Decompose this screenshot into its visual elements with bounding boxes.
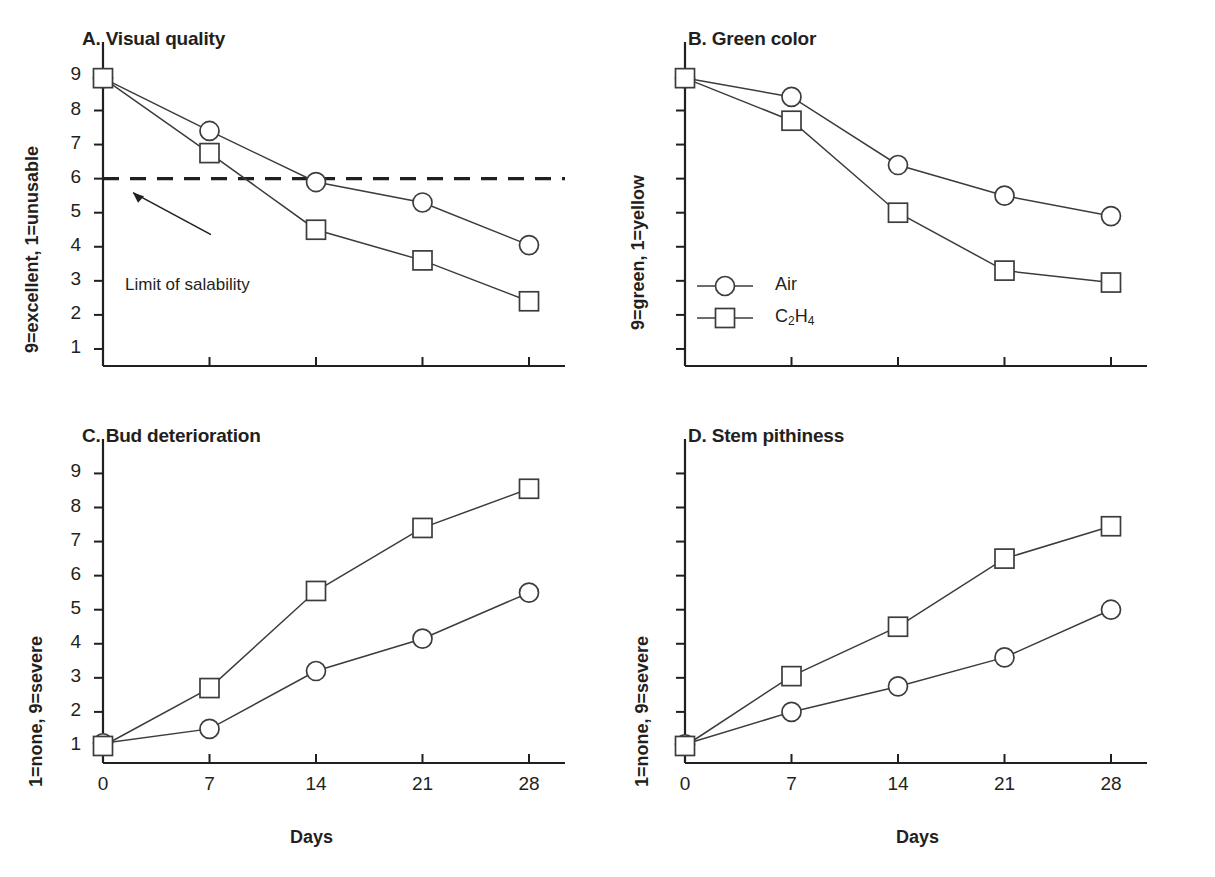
panel-c-x-axis-label: Days	[290, 827, 333, 848]
panel-c-y-axis-label: 1=none, 9=severe	[26, 636, 47, 787]
figure-root: A. Visual quality 9=excellent, 1=unusabl…	[0, 0, 1215, 877]
square-open-marker	[995, 261, 1014, 280]
square-open-marker	[520, 479, 539, 498]
panel-b-plot	[600, 18, 1215, 388]
y-tick-label: 3	[59, 665, 81, 687]
y-tick-label: 6	[59, 563, 81, 585]
panel-b-y-axis-label: 9=green, 1=yellow	[628, 175, 649, 330]
panel-c-title: C. Bud deterioration	[82, 425, 261, 447]
panel-a-y-axis-label: 9=excellent, 1=unusable	[22, 146, 43, 353]
series-line-C2H4	[103, 489, 529, 746]
panel-d-y-axis-label: 1=none, 9=severe	[632, 636, 653, 787]
panel-a-plot	[0, 18, 600, 388]
circle-open-marker	[520, 236, 539, 255]
square-open-marker	[520, 292, 539, 311]
series-line-C2H4	[685, 78, 1111, 282]
square-open-marker	[782, 667, 801, 686]
square-open-marker	[676, 736, 695, 755]
y-tick-label: 6	[59, 166, 81, 188]
cropped-header-text	[0, 0, 1215, 10]
circle-open-marker	[1102, 600, 1121, 619]
circle-open-marker	[307, 662, 326, 681]
y-tick-label: 9	[59, 63, 81, 85]
legend-label-c2h4: C2H4	[775, 306, 814, 328]
square-open-marker	[200, 679, 219, 698]
square-open-marker	[1102, 273, 1121, 292]
legend-marker-c2h4	[716, 309, 735, 328]
square-open-marker	[995, 549, 1014, 568]
series-line-Air	[685, 78, 1111, 216]
circle-open-marker	[995, 648, 1014, 667]
circle-open-marker	[413, 193, 432, 212]
x-tick-label: 28	[512, 773, 546, 795]
x-tick-label: 14	[881, 773, 915, 795]
y-tick-label: 2	[59, 302, 81, 324]
y-tick-label: 8	[59, 98, 81, 120]
square-open-marker	[94, 69, 113, 88]
square-open-marker	[889, 617, 908, 636]
square-open-marker	[413, 518, 432, 537]
y-tick-label: 4	[59, 631, 81, 653]
circle-open-marker	[307, 173, 326, 192]
y-tick-label: 5	[59, 597, 81, 619]
circle-open-marker	[995, 186, 1014, 205]
square-open-marker	[307, 581, 326, 600]
y-tick-label: 1	[59, 336, 81, 358]
limit-of-salability-annotation: Limit of salability	[125, 275, 250, 295]
panel-a-visual-quality: A. Visual quality 9=excellent, 1=unusabl…	[0, 18, 600, 388]
y-tick-label: 3	[59, 268, 81, 290]
square-open-marker	[782, 111, 801, 130]
x-tick-label: 0	[668, 773, 702, 795]
y-tick-label: 7	[59, 529, 81, 551]
y-tick-label: 4	[59, 234, 81, 256]
square-open-marker	[413, 251, 432, 270]
square-open-marker	[94, 736, 113, 755]
panel-c-plot	[0, 415, 600, 815]
circle-open-marker	[200, 719, 219, 738]
panel-b-green-color: B. Green color 9=green, 1=yellow Air C2H…	[600, 18, 1215, 388]
panel-a-title: A. Visual quality	[82, 28, 225, 50]
y-tick-label: 2	[59, 699, 81, 721]
annotation-arrow-line	[133, 193, 211, 235]
x-tick-label: 21	[988, 773, 1022, 795]
legend-label-air: Air	[775, 274, 797, 295]
square-open-marker	[200, 144, 219, 163]
circle-open-marker	[200, 121, 219, 140]
panel-d-plot	[600, 415, 1215, 815]
panel-d-stem-pithiness: D. Stem pithiness 1=none, 9=severe Days …	[600, 415, 1215, 877]
circle-open-marker	[782, 702, 801, 721]
y-tick-label: 9	[59, 460, 81, 482]
panel-d-x-axis-label: Days	[896, 827, 939, 848]
panel-d-title: D. Stem pithiness	[688, 425, 844, 447]
square-open-marker	[889, 203, 908, 222]
circle-open-marker	[520, 583, 539, 602]
y-tick-label: 7	[59, 132, 81, 154]
square-open-marker	[1102, 517, 1121, 536]
y-tick-label: 5	[59, 200, 81, 222]
circle-open-marker	[1102, 207, 1121, 226]
x-tick-label: 21	[406, 773, 440, 795]
y-tick-label: 8	[59, 495, 81, 517]
square-open-marker	[307, 220, 326, 239]
x-tick-label: 7	[775, 773, 809, 795]
x-tick-label: 14	[299, 773, 333, 795]
square-open-marker	[676, 69, 695, 88]
circle-open-marker	[782, 87, 801, 106]
circle-open-marker	[889, 156, 908, 175]
circle-open-marker	[889, 677, 908, 696]
legend-marker-air	[716, 277, 735, 296]
x-tick-label: 0	[86, 773, 120, 795]
x-tick-label: 7	[193, 773, 227, 795]
annotation-arrow-head	[133, 193, 144, 203]
panel-b-title: B. Green color	[688, 28, 816, 50]
y-tick-label: 1	[59, 733, 81, 755]
panel-c-bud-deterioration: C. Bud deterioration 1=none, 9=severe Da…	[0, 415, 600, 877]
circle-open-marker	[413, 629, 432, 648]
x-tick-label: 28	[1094, 773, 1128, 795]
